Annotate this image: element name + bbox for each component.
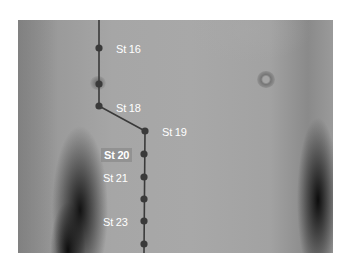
label-st21: St 21: [103, 172, 128, 184]
point-st24-dot: [140, 240, 147, 247]
point-st23-dot: [140, 217, 147, 224]
label-st20: St 20: [101, 148, 132, 162]
point-st21-dot: [140, 173, 147, 180]
point-st17-dot: [95, 80, 102, 87]
label-st19: St 19: [162, 126, 187, 138]
point-st22-dot: [140, 195, 147, 202]
point-st18-dot: [95, 102, 102, 109]
point-st19-dot: [141, 127, 148, 134]
point-st20-dot: [140, 150, 147, 157]
label-st23: St 23: [103, 216, 128, 228]
point-st16-dot: [95, 44, 102, 51]
label-st16: St 16: [116, 43, 141, 55]
label-st18: St 18: [116, 102, 141, 114]
